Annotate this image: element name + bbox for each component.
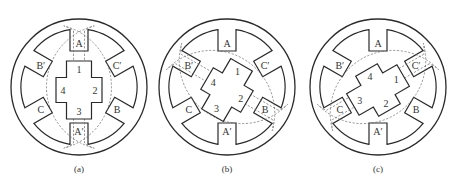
rotor-tooth-label-3: 3 bbox=[77, 106, 82, 117]
stator-pole-label-c: C bbox=[186, 104, 193, 115]
rotor-tooth-label-2: 2 bbox=[384, 98, 389, 109]
panel-c: AC′BA′CB′1234 bbox=[310, 19, 446, 155]
rotor-tooth-label-2: 2 bbox=[93, 85, 98, 96]
stepper-motor-figure: AC′BA′CB′1234 AC′BA′CB′1234 AC′BA′CB′123… bbox=[0, 0, 456, 187]
stator-pole-label-b: B bbox=[413, 104, 420, 115]
stator-pole-label-b-prime: B′ bbox=[184, 60, 193, 71]
rotor-tooth-label-1: 1 bbox=[394, 74, 399, 85]
rotor-tooth-label-2: 2 bbox=[238, 93, 243, 104]
rotor-tooth-label-1: 1 bbox=[77, 64, 82, 75]
stator-pole-label-a-prime: A′ bbox=[74, 126, 83, 137]
rotor-tooth-label-3: 3 bbox=[214, 103, 219, 114]
stator-pole-label-b: B bbox=[262, 104, 269, 115]
stator-pole-label-c: C bbox=[337, 104, 344, 115]
stator-pole-label-a-prime: A′ bbox=[222, 126, 231, 137]
rotor-tooth-label-4: 4 bbox=[211, 77, 216, 88]
panel-a: AC′BA′CB′1234 bbox=[11, 19, 147, 155]
panel-b: AC′BA′CB′1234 bbox=[159, 19, 295, 155]
stator-pole-label-a: A bbox=[374, 38, 382, 49]
caption-c: (c) bbox=[373, 164, 383, 174]
stator-pole-label-c-prime: C′ bbox=[113, 60, 122, 71]
stator-pole-label-c-prime: C′ bbox=[261, 60, 270, 71]
stator-pole-label-a: A bbox=[223, 38, 231, 49]
caption-b: (b) bbox=[222, 164, 233, 174]
rotor-tooth-label-4: 4 bbox=[368, 71, 373, 82]
stator-pole-label-a: A bbox=[75, 38, 83, 49]
rotor-tooth-label-3: 3 bbox=[357, 95, 362, 106]
stator-pole-label-a-prime: A′ bbox=[373, 126, 382, 137]
caption-a: (a) bbox=[74, 164, 84, 174]
stator-pole-label-c-prime: C′ bbox=[412, 60, 421, 71]
stator-pole-label-b-prime: B′ bbox=[36, 60, 45, 71]
rotor-tooth-label-4: 4 bbox=[61, 85, 66, 96]
stator-pole-label-b: B bbox=[114, 104, 121, 115]
rotor-tooth-label-1: 1 bbox=[235, 66, 240, 77]
stator-pole-label-c: C bbox=[38, 104, 45, 115]
stator-pole-label-b-prime: B′ bbox=[335, 60, 344, 71]
